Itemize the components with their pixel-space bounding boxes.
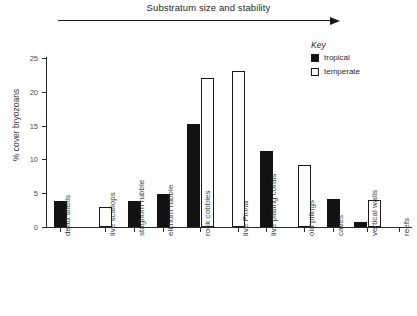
y-axis-tick: [42, 193, 47, 194]
x-axis-category-label: elkhorn rubble: [166, 185, 175, 236]
x-axis-tick: [304, 228, 305, 232]
x-axis-tick: [238, 228, 239, 232]
x-axis-category-label: reefs: [402, 218, 411, 236]
y-axis-tick: [42, 92, 47, 93]
x-axis-category-label: live scallops: [108, 192, 117, 236]
x-axis-category-label: vertical walls: [370, 190, 379, 236]
x-axis-category-label: old pilings: [307, 200, 316, 236]
x-axis-tick: [105, 228, 106, 232]
x-axis-tick: [163, 228, 164, 232]
y-axis-tick-label: 0: [4, 223, 38, 232]
y-axis-tick-label: 25: [4, 54, 38, 63]
y-axis-tick: [42, 58, 47, 59]
y-axis-tick: [42, 159, 47, 160]
x-axis-category-label: rock cobbles: [203, 190, 212, 236]
plot-area: % cover bryozoans 0510152025 dead shells…: [0, 0, 417, 316]
y-axis-tick-label: 15: [4, 122, 38, 131]
x-axis-tick: [399, 228, 400, 232]
bryozoan-cover-bar-chart: Substratum size and stability Key tropic…: [0, 0, 417, 316]
x-axis-category-label: live plating corals: [269, 174, 278, 236]
x-axis-category-label: caves: [336, 215, 345, 236]
x-axis-category-label: dead shells: [63, 195, 72, 236]
bar-tropical: [354, 222, 367, 227]
y-axis-tick-label: 10: [4, 155, 38, 164]
x-axis-tick: [367, 228, 368, 232]
y-axis-tick: [42, 126, 47, 127]
y-axis-tick: [42, 227, 47, 228]
bar-tropical: [187, 124, 200, 227]
y-axis-line: [46, 57, 47, 228]
y-axis-tick-label: 20: [4, 88, 38, 97]
x-axis-line: [46, 227, 412, 228]
x-axis-tick: [200, 228, 201, 232]
x-axis-tick: [134, 228, 135, 232]
x-axis-tick: [266, 228, 267, 232]
y-axis-tick-label: 5: [4, 189, 38, 198]
x-axis-tick: [333, 228, 334, 232]
x-axis-tick: [60, 228, 61, 232]
x-axis-category-label: live Pinna: [241, 201, 250, 236]
x-axis-category-label: staghorn rubble: [137, 180, 146, 236]
